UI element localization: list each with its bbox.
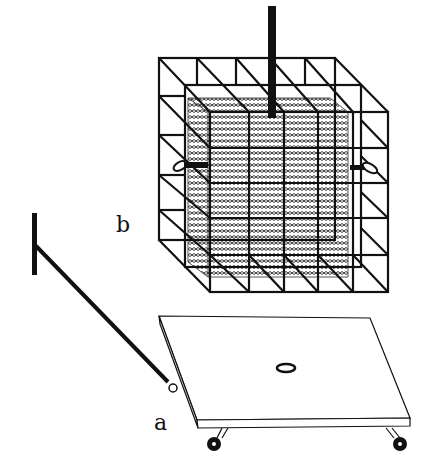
net-box	[188, 98, 348, 277]
label-a: a	[154, 410, 167, 435]
wheel-left	[207, 428, 228, 451]
box-handle-right	[350, 161, 379, 176]
pull-handle	[32, 213, 177, 392]
diagram-canvas	[0, 0, 422, 451]
label-b: b	[116, 212, 130, 237]
platform-hole	[277, 364, 295, 372]
top-pole	[268, 6, 276, 118]
wheeled-platform	[159, 316, 410, 428]
wheel-right	[386, 428, 407, 451]
